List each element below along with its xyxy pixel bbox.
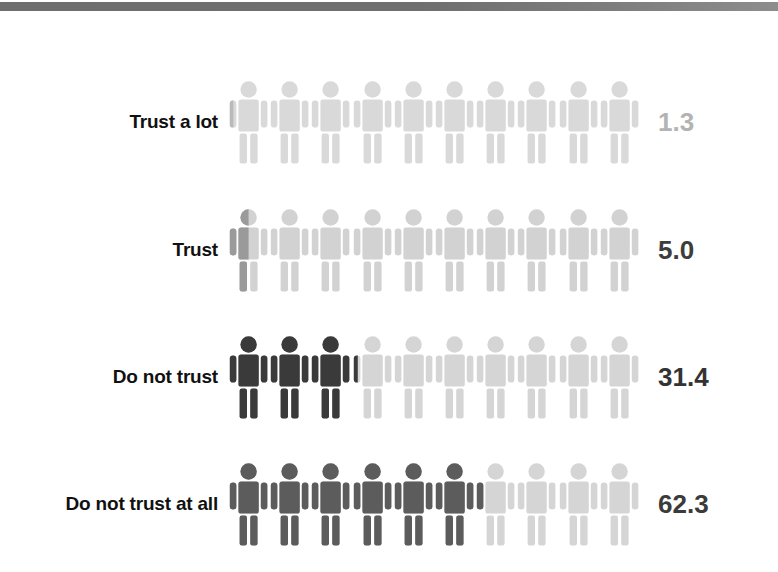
row-value-trust: 5.0 [658, 235, 694, 266]
row-label-do-not-trust-at-all: Do not trust at all [0, 493, 228, 515]
person-icon [558, 334, 599, 420]
person-icon [393, 334, 434, 420]
pictogram-icon-group-do-not-trust [228, 334, 640, 420]
pictogram-row-do-not-trust-at-all: Do not trust at all62.3 [0, 461, 778, 547]
person-icon [269, 79, 310, 165]
person-icon [352, 207, 393, 293]
row-value-do-not-trust-at-all: 62.3 [658, 489, 709, 520]
row-label-trust-a-lot: Trust a lot [0, 111, 228, 133]
person-icon [475, 334, 516, 420]
pictogram-icon-group-trust [228, 207, 640, 293]
pictogram-chart: Trust a lot1.3Trust5.0Do not trust31.4Do… [0, 11, 778, 572]
person-icon [310, 334, 351, 420]
person-icon [393, 79, 434, 165]
person-icon [599, 207, 640, 293]
person-icon [228, 79, 269, 165]
pictogram-row-trust-a-lot: Trust a lot1.3 [0, 79, 778, 165]
person-icon [516, 79, 557, 165]
person-icon [393, 461, 434, 547]
person-icon [434, 207, 475, 293]
top-rule-divider [0, 2, 778, 11]
row-label-do-not-trust: Do not trust [0, 366, 228, 388]
row-value-do-not-trust: 31.4 [658, 362, 709, 393]
person-icon [352, 79, 393, 165]
person-icon [310, 207, 351, 293]
person-icon [434, 461, 475, 547]
person-icon [269, 207, 310, 293]
person-icon [475, 461, 516, 547]
row-label-trust: Trust [0, 239, 228, 261]
pictogram-row-do-not-trust: Do not trust31.4 [0, 334, 778, 420]
pictogram-icon-group-trust-a-lot [228, 79, 640, 165]
person-icon [434, 334, 475, 420]
person-icon [475, 207, 516, 293]
person-icon [599, 79, 640, 165]
person-icon [599, 334, 640, 420]
person-icon [558, 207, 599, 293]
person-icon [352, 461, 393, 547]
person-icon [599, 461, 640, 547]
person-icon [516, 461, 557, 547]
pictogram-row-trust: Trust5.0 [0, 207, 778, 293]
person-icon [228, 334, 269, 420]
person-icon [310, 461, 351, 547]
person-icon [228, 461, 269, 547]
person-icon [516, 334, 557, 420]
person-icon [393, 207, 434, 293]
person-icon [352, 334, 393, 420]
person-icon [434, 79, 475, 165]
person-icon [558, 461, 599, 547]
person-icon [228, 207, 269, 293]
person-icon [475, 79, 516, 165]
person-icon [516, 207, 557, 293]
pictogram-chart-canvas: Trust a lot1.3Trust5.0Do not trust31.4Do… [0, 0, 778, 572]
pictogram-icon-group-do-not-trust-at-all [228, 461, 640, 547]
row-value-trust-a-lot: 1.3 [658, 107, 694, 138]
person-icon [310, 79, 351, 165]
person-icon [558, 79, 599, 165]
person-icon [269, 461, 310, 547]
person-icon [269, 334, 310, 420]
